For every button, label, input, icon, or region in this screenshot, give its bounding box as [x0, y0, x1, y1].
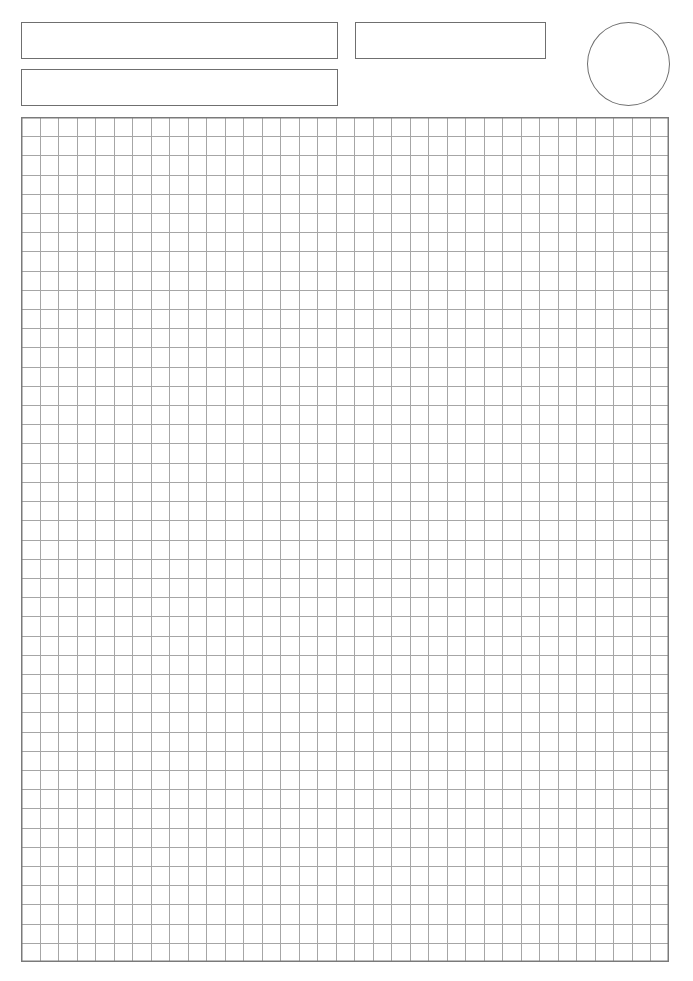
graph-paper-grid[interactable]	[21, 117, 669, 962]
top-left-field-box[interactable]	[21, 22, 338, 59]
score-circle[interactable]	[587, 22, 670, 106]
grid-lines	[21, 117, 669, 962]
top-right-field-box[interactable]	[355, 22, 546, 59]
second-left-field-box[interactable]	[21, 69, 338, 106]
